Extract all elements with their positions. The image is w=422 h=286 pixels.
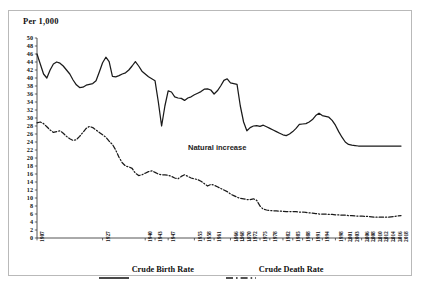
chart-legend: Crude Birth Rate Crude Death Rate — [0, 258, 422, 277]
x-axis-tick-label: 2003 — [354, 231, 360, 242]
y-axis-tick-label: 16 — [19, 171, 33, 177]
x-axis-tick-label: 1978 — [272, 231, 278, 242]
x-axis-tick-label: 2016 — [397, 231, 403, 242]
x-axis-tick-label: 1991 — [315, 231, 321, 242]
x-axis-tick-label: 1975 — [262, 231, 268, 242]
y-axis-tick-label: 6 — [19, 211, 33, 217]
x-axis-tick-label: 1972 — [252, 231, 258, 242]
x-axis-tick-label: 2018 — [403, 231, 409, 242]
y-axis-tick-label: 44 — [19, 59, 33, 65]
legend-swatch-dashdot-line — [226, 267, 256, 273]
y-axis-tick-label: 46 — [19, 51, 33, 57]
y-axis-tick-label: 42 — [19, 67, 33, 73]
y-axis-tick-label: 12 — [19, 187, 33, 193]
legend-swatch-solid-line — [99, 267, 129, 273]
y-axis-tick-label: 48 — [19, 43, 33, 49]
y-axis-tick-label: 28 — [19, 123, 33, 129]
y-axis-tick-label: 10 — [19, 195, 33, 201]
x-axis-tick-label: 1940 — [147, 231, 153, 242]
y-axis-tick-label: 26 — [19, 131, 33, 137]
x-axis-tick-label: 1998 — [338, 231, 344, 242]
x-axis-tick-label: 1907 — [39, 231, 45, 242]
y-axis-tick-label: 36 — [19, 91, 33, 97]
x-axis-tick-label: 1988 — [305, 231, 311, 242]
y-axis-tick-label: 18 — [19, 163, 33, 169]
y-axis-tick-label: 40 — [19, 75, 33, 81]
y-axis-tick-label: 4 — [19, 219, 33, 225]
x-axis-tick-label: 1968 — [239, 231, 245, 242]
x-axis-tick-label: 1958 — [206, 231, 212, 242]
y-axis-tick-label: 32 — [19, 107, 33, 113]
y-axis-tick-label: 8 — [19, 203, 33, 209]
birth-rate-line — [37, 54, 401, 146]
chart-plot-area: 5048464442403836343230282624222018161412… — [8, 10, 412, 276]
y-axis-tick-label: 50 — [19, 35, 33, 41]
y-axis-tick-label: 0 — [19, 235, 33, 241]
x-axis-tick-label: 1970 — [246, 231, 252, 242]
y-axis-tick-label: 22 — [19, 147, 33, 153]
x-axis-tick-label: 2012 — [383, 231, 389, 242]
legend-item-birth-rate: Crude Birth Rate — [99, 259, 194, 277]
y-axis-tick-label: 30 — [19, 115, 33, 121]
x-axis-tick-label: 2014 — [390, 231, 396, 242]
x-axis-tick-label: 1943 — [157, 231, 163, 242]
y-axis-tick-label: 2 — [19, 227, 33, 233]
y-axis-tick-label: 20 — [19, 155, 33, 161]
y-axis-tick-label: 24 — [19, 139, 33, 145]
x-axis-tick-label: 1955 — [197, 231, 203, 242]
x-axis-tick-label: 2008 — [370, 231, 376, 242]
x-axis-tick-label: 2010 — [377, 231, 383, 242]
legend-label-death-rate: Crude Death Rate — [259, 265, 324, 274]
y-axis-tick-label: 14 — [19, 179, 33, 185]
x-axis-tick-label: 2001 — [347, 231, 353, 242]
y-axis-tick-label: 38 — [19, 83, 33, 89]
x-axis-tick-label: 1966 — [233, 231, 239, 242]
x-axis-tick-label: 1994 — [324, 231, 330, 242]
legend-label-birth-rate: Crude Birth Rate — [132, 265, 194, 274]
x-axis-tick-label: 1961 — [216, 231, 222, 242]
x-axis-tick-label: 1947 — [170, 231, 176, 242]
legend-item-death-rate: Crude Death Rate — [226, 259, 324, 277]
x-axis-tick-label: 1982 — [285, 231, 291, 242]
x-axis-tick-label: 2006 — [364, 231, 370, 242]
x-axis-tick-label: 1927 — [105, 231, 111, 242]
x-axis-tick-label: 1985 — [295, 231, 301, 242]
death-rate-line — [37, 122, 401, 217]
y-axis-tick-label: 34 — [19, 99, 33, 105]
